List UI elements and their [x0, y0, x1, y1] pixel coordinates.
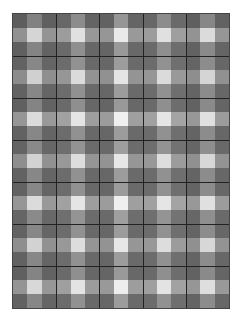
pattern-cell [27, 14, 41, 28]
pattern-cell [157, 140, 171, 154]
pattern-cell [56, 224, 70, 238]
pattern-cell [215, 112, 229, 126]
pattern-cell [71, 238, 85, 252]
pattern-cell [56, 98, 70, 112]
pattern-cell [114, 196, 128, 210]
pattern-cell [99, 182, 113, 196]
pattern-cell [42, 280, 56, 294]
pattern-cell [143, 42, 157, 56]
pattern-cell [13, 280, 27, 294]
pattern-cell [99, 280, 113, 294]
pattern-cell [114, 168, 128, 182]
pattern-cell [85, 112, 99, 126]
pattern-cell [215, 280, 229, 294]
pattern-cell [114, 28, 128, 42]
pattern-cell [186, 112, 200, 126]
pattern-cell [56, 112, 70, 126]
pattern-cell [71, 140, 85, 154]
pattern-cell [71, 98, 85, 112]
pattern-cell [128, 224, 142, 238]
pattern-cell [42, 70, 56, 84]
pattern-cell [200, 168, 214, 182]
pattern-cell [200, 266, 214, 280]
pattern-cell [85, 266, 99, 280]
pattern-cell [99, 112, 113, 126]
pattern-cell [143, 112, 157, 126]
pattern-cell [171, 154, 185, 168]
pattern-cell [157, 112, 171, 126]
pattern-cell [71, 70, 85, 84]
pattern-cell [56, 196, 70, 210]
pattern-cell [143, 266, 157, 280]
pattern-cell [27, 56, 41, 70]
pattern-cell [42, 168, 56, 182]
pattern-cell [56, 182, 70, 196]
pattern-cell [157, 280, 171, 294]
pattern-cell [56, 280, 70, 294]
pattern-cell [186, 154, 200, 168]
pattern-cell [215, 210, 229, 224]
pattern-cell [143, 280, 157, 294]
pattern-cell [85, 182, 99, 196]
pattern-cell [157, 238, 171, 252]
pattern-cell [186, 14, 200, 28]
pattern-cell [114, 238, 128, 252]
pattern-cell [215, 266, 229, 280]
pattern-cell [85, 280, 99, 294]
pattern-cell [85, 70, 99, 84]
pattern-cell [27, 266, 41, 280]
pattern-cell [200, 238, 214, 252]
pattern-cell [13, 140, 27, 154]
pattern-cell [215, 42, 229, 56]
pattern-cell [85, 294, 99, 308]
pattern-cell [215, 168, 229, 182]
pattern-cell [42, 196, 56, 210]
pattern-cell [99, 84, 113, 98]
pattern-cell [143, 28, 157, 42]
pattern-cell [99, 252, 113, 266]
pattern-cell [128, 210, 142, 224]
pattern-cell [71, 28, 85, 42]
pattern-cell [186, 280, 200, 294]
pattern-cell [157, 28, 171, 42]
pattern-cell [42, 154, 56, 168]
pattern-cell [27, 112, 41, 126]
pattern-cell [200, 182, 214, 196]
pattern-cell [27, 182, 41, 196]
pattern-cell [71, 14, 85, 28]
pattern-cell [99, 238, 113, 252]
pattern-cell [186, 238, 200, 252]
pattern-cell [157, 294, 171, 308]
pattern-cell [215, 14, 229, 28]
pattern-cell [200, 70, 214, 84]
pattern-cell [128, 42, 142, 56]
pattern-cell [128, 154, 142, 168]
pattern-cell [56, 56, 70, 70]
pattern-cell [85, 210, 99, 224]
pattern-cell [27, 42, 41, 56]
pattern-cell [128, 84, 142, 98]
pattern-cell [200, 84, 214, 98]
pattern-cell [114, 112, 128, 126]
pattern-cell [200, 224, 214, 238]
pattern-cell [186, 98, 200, 112]
pattern-cell [157, 42, 171, 56]
pattern-cell [42, 224, 56, 238]
pattern-cell [171, 238, 185, 252]
pattern-cell [143, 140, 157, 154]
pattern-cell [42, 126, 56, 140]
pattern-cell [13, 224, 27, 238]
pattern-cell [143, 14, 157, 28]
pattern-cell [114, 98, 128, 112]
pattern-cell [99, 154, 113, 168]
pattern-cell [171, 42, 185, 56]
pattern-cell [128, 266, 142, 280]
pattern-cell [42, 84, 56, 98]
pattern-cell [186, 294, 200, 308]
pattern-cell [99, 294, 113, 308]
pattern-cell [114, 210, 128, 224]
pattern-cell [143, 70, 157, 84]
pattern-cell [85, 154, 99, 168]
pattern-cell [99, 28, 113, 42]
pattern-cell [128, 196, 142, 210]
